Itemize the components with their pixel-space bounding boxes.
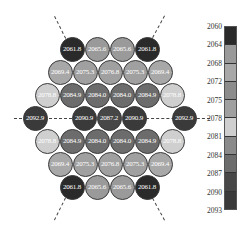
heatmap-cell: 2078.8: [35, 83, 60, 108]
colorbar-segment: [225, 137, 236, 155]
cell-value: 2084.0: [113, 137, 131, 145]
cell-value: 2078.8: [38, 91, 56, 99]
heatmap-cell: 2090.9: [72, 106, 97, 131]
heatmap-cell: 2065.6: [85, 175, 110, 200]
cell-value: 2065.6: [88, 45, 106, 53]
heatmap-cell: 2069.4: [148, 152, 173, 177]
cell-value: 2061.8: [138, 183, 156, 191]
heatmap-cell: 2084.0: [110, 129, 135, 154]
cell-value: 2078.8: [163, 137, 181, 145]
dashed-line-bottom-right: [152, 198, 165, 220]
cell-value: 2090.9: [75, 114, 93, 122]
colorbar-segment: [225, 192, 236, 209]
colorbar-segment: [225, 27, 236, 45]
cell-value: 2061.8: [138, 45, 156, 53]
heatmap-cell: 2065.6: [110, 175, 135, 200]
cell-value: 2065.6: [113, 183, 131, 191]
heatmap-cell: 2075.3: [73, 60, 98, 85]
cell-value: 2061.8: [63, 183, 81, 191]
cell-value: 2076.8: [101, 160, 119, 168]
heatmap-cell: 2084.9: [135, 83, 160, 108]
heatmap-cell: 2061.8: [135, 175, 160, 200]
cell-value: 2084.9: [63, 91, 81, 99]
heatmap-cell: 2078.8: [35, 129, 60, 154]
heatmap-cell: 2076.8: [98, 152, 123, 177]
heatmap-cell: 2084.0: [85, 83, 110, 108]
colorbar-tick-label: 2090: [198, 187, 222, 196]
heatmap-cell: 2069.4: [48, 152, 73, 177]
cell-value: 2075.3: [126, 160, 144, 168]
heatmap-cell: 2061.8: [60, 37, 85, 62]
heatmap-cell: 2078.8: [160, 83, 185, 108]
heatmap-cell: 2075.3: [73, 152, 98, 177]
colorbar-segment: [225, 118, 236, 136]
heatmap-cell: 2061.8: [60, 175, 85, 200]
cell-value: 2069.4: [51, 160, 69, 168]
heatmap-cell: 2076.8: [98, 60, 123, 85]
cell-value: 2075.3: [76, 68, 94, 76]
heatmap-cell: 2084.9: [60, 83, 85, 108]
heatmap-cell: 2065.6: [110, 37, 135, 62]
colorbar-segment: [225, 82, 236, 100]
cell-value: 2069.4: [151, 160, 169, 168]
cell-value: 2078.8: [163, 91, 181, 99]
colorbar-segment: [225, 155, 236, 173]
dashed-line-bottom-left: [54, 198, 66, 220]
heatmap-cell: 2065.6: [85, 37, 110, 62]
heatmap-cell: 2092.9: [172, 106, 197, 131]
heatmap-cell: 2069.4: [48, 60, 73, 85]
cell-value: 2084.0: [88, 137, 106, 145]
colorbar-tick-label: 2068: [198, 58, 222, 67]
cell-value: 2084.9: [138, 137, 156, 145]
cell-value: 2084.9: [63, 137, 81, 145]
colorbar: [224, 26, 237, 210]
cell-value: 2065.6: [88, 183, 106, 191]
cell-value: 2084.0: [88, 91, 106, 99]
cell-value: 2078.8: [38, 137, 56, 145]
colorbar-segment: [225, 45, 236, 63]
heatmap-cell: 2061.8: [135, 37, 160, 62]
cell-value: 2061.8: [63, 45, 81, 53]
cell-value: 2076.8: [101, 68, 119, 76]
cell-value: 2084.9: [138, 91, 156, 99]
heatmap-cell: 2090.9: [122, 106, 147, 131]
colorbar-tick-label: 2075: [198, 95, 222, 104]
colorbar-tick-label: 2064: [198, 40, 222, 49]
colorbar-tick-label: 2081: [198, 132, 222, 141]
dashed-line-top-right: [152, 16, 165, 38]
cell-value: 2084.0: [113, 91, 131, 99]
cell-value: 2069.4: [151, 68, 169, 76]
colorbar-tick-label: 2093: [198, 206, 222, 215]
colorbar-tick-label: 2078: [198, 114, 222, 123]
heatmap-cell: 2075.3: [123, 60, 148, 85]
cell-value: 2092.9: [175, 114, 193, 122]
heatmap-cell: 2084.9: [135, 129, 160, 154]
dashed-line-top-left: [54, 16, 66, 38]
heatmap-cell: 2092.9: [23, 106, 48, 131]
heatmap-cell: 2087.2: [97, 106, 122, 131]
heatmap-cell: 2069.4: [148, 60, 173, 85]
colorbar-segment: [225, 173, 236, 191]
heatmap-cell: 2075.3: [123, 152, 148, 177]
cell-value: 2090.9: [125, 114, 143, 122]
cell-value: 2075.3: [76, 160, 94, 168]
colorbar-tick-label: 2087: [198, 169, 222, 178]
heatmap-cell: 2084.9: [60, 129, 85, 154]
colorbar-tick-label: 2072: [198, 77, 222, 86]
cell-value: 2087.2: [100, 114, 118, 122]
colorbar-tick-label: 2060: [198, 22, 222, 31]
heatmap-cell: 2084.0: [85, 129, 110, 154]
heatmap-cell: 2078.8: [160, 129, 185, 154]
colorbar-segment: [225, 64, 236, 82]
cell-value: 2092.9: [26, 114, 44, 122]
cell-value: 2075.3: [126, 68, 144, 76]
cell-value: 2069.4: [51, 68, 69, 76]
colorbar-segment: [225, 100, 236, 118]
cell-value: 2065.6: [113, 45, 131, 53]
heatmap-cell: 2084.0: [110, 83, 135, 108]
colorbar-tick-label: 2084: [198, 150, 222, 159]
